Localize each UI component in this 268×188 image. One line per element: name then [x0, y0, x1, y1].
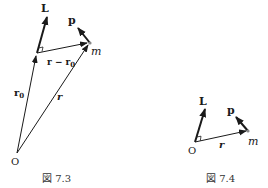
caption-fig-7-3: 図 7.3: [42, 173, 71, 184]
diagram-canvas: L p m r − r0 r0 r O 図 7.3 L p m r O 図 7.…: [0, 0, 268, 188]
label-r0: r0: [14, 87, 24, 100]
label-origin: O: [188, 145, 196, 156]
figure-7-3: L p m r − r0 r0 r O 図 7.3: [11, 2, 101, 184]
right-angle-mark: [39, 47, 44, 52]
vector-p: [236, 117, 248, 131]
label-L: L: [41, 2, 49, 15]
label-L: L: [199, 95, 207, 108]
label-p: p: [227, 104, 235, 117]
vector-p: [78, 28, 90, 43]
label-r-minus-r0: r − r0: [47, 57, 75, 69]
caption-fig-7-4: 図 7.4: [206, 173, 235, 184]
label-origin: O: [11, 156, 19, 167]
label-m: m: [91, 45, 101, 58]
vector-r-minus-r0: [37, 43, 87, 53]
vector-L: [195, 109, 205, 142]
label-r: r: [57, 91, 63, 102]
label-r: r: [219, 139, 225, 150]
figure-7-4: L p m r O 図 7.4: [188, 95, 258, 184]
label-p: p: [68, 14, 76, 27]
right-angle-mark: [197, 136, 202, 141]
mass-point: [246, 129, 249, 132]
label-m: m: [248, 135, 258, 148]
